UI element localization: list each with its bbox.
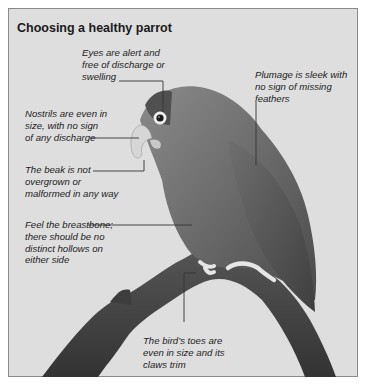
callout-beak-line: overgrown or <box>25 176 81 187</box>
callout-eyes-line: Eyes are alert and <box>82 47 160 58</box>
callout-toes-line: The bird’s toes are <box>143 335 222 346</box>
callout-breastbone-line: Feel the breastbone; <box>25 219 113 230</box>
callout-toes: The bird’s toes are even in size and its… <box>143 335 225 370</box>
callout-toes-line: claws trim <box>143 359 186 370</box>
callout-beak-line: malformed in any way <box>25 188 118 199</box>
callout-eyes-line: swelling <box>82 71 116 82</box>
callout-nostrils: Nostrils are even in size, with no sign … <box>25 108 107 143</box>
callout-plumage-line: no sign of missing <box>255 81 332 92</box>
callout-nostrils-line: Nostrils are even in <box>25 108 107 119</box>
callout-breastbone-line: there should be no <box>25 231 104 242</box>
callout-beak: The beak is not overgrown or malformed i… <box>25 164 118 199</box>
callout-nostrils-line: of any discharge <box>25 132 95 143</box>
callout-eyes: Eyes are alert and free of discharge or … <box>82 47 165 82</box>
callout-breastbone-line: either side <box>25 254 69 265</box>
callout-breastbone: Feel the breastbone; there should be no … <box>25 219 113 266</box>
callout-beak-line: The beak is not <box>25 164 91 175</box>
callout-plumage-line: Plumage is sleek with <box>255 69 347 80</box>
callout-nostrils-line: size, with no sign <box>25 120 98 131</box>
callout-toes-line: even in size and its <box>143 347 225 358</box>
callout-breastbone-line: distinct hollows on <box>25 243 103 254</box>
callout-eyes-line: free of discharge or <box>82 59 165 70</box>
callout-plumage: Plumage is sleek with no sign of missing… <box>255 69 347 104</box>
page-title: Choosing a healthy parrot <box>17 21 172 35</box>
callout-plumage-line: feathers <box>255 93 290 104</box>
